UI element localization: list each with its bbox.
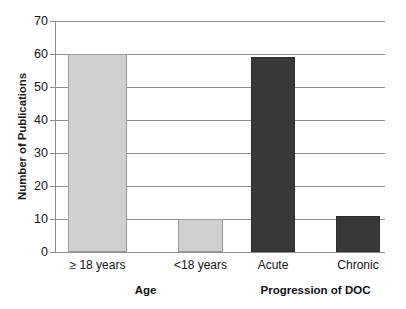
y-axis-tick-mark — [50, 252, 55, 253]
bar-chronic[interactable] — [336, 216, 380, 252]
y-axis-tick-label: 20 — [18, 180, 48, 193]
y-axis-tick-label: 30 — [18, 147, 48, 160]
x-axis-category-label: Chronic — [298, 258, 406, 272]
y-axis-tick-label: 0 — [18, 246, 48, 259]
y-axis-tick-mark — [50, 153, 55, 154]
x-axis-category-label: ≥ 18 years — [38, 258, 158, 272]
y-axis-tick-mark — [50, 87, 55, 88]
y-axis-tick-mark — [50, 54, 55, 55]
plot-area — [55, 21, 385, 252]
bar-18-years[interactable] — [178, 219, 223, 252]
bar-18-years[interactable] — [68, 54, 127, 252]
y-axis-tick-label: 40 — [18, 114, 48, 127]
y-axis-tick-label: 70 — [18, 15, 48, 28]
gridline — [55, 252, 385, 253]
gridline — [55, 21, 385, 22]
bar-acute[interactable] — [251, 57, 295, 252]
y-axis-tick-mark — [50, 21, 55, 22]
y-axis-tick-label: 50 — [18, 81, 48, 94]
y-axis-tick-mark — [50, 219, 55, 220]
y-axis-tick-mark — [50, 186, 55, 187]
x-axis-group-label: Age — [56, 283, 236, 297]
bar-chart: Number of Publications 010203040506070 ≥… — [0, 0, 406, 309]
y-axis-tick-label: 60 — [18, 48, 48, 61]
y-axis-tick-mark — [50, 120, 55, 121]
y-axis-tick-label: 10 — [18, 213, 48, 226]
x-axis-group-label: Progression of DOC — [226, 283, 406, 297]
